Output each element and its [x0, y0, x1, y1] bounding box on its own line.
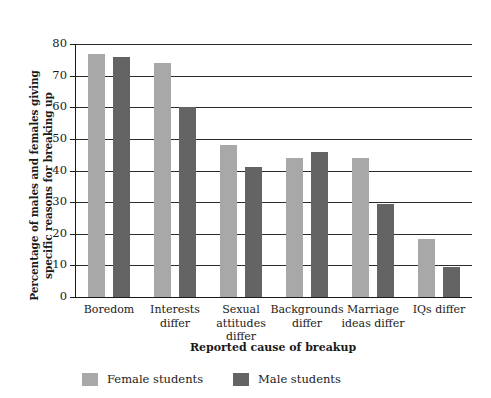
- gridline-30: [76, 202, 472, 203]
- y-axis-title: Percentage of males and females giving s…: [28, 57, 55, 315]
- y-tick-label-70: 70: [52, 70, 67, 82]
- gridline-50: [76, 139, 472, 140]
- y-tick-label-20: 20: [52, 228, 67, 240]
- gridline-80: [76, 44, 472, 45]
- bar-female-5: [418, 239, 435, 298]
- gridline-60: [76, 107, 472, 108]
- bar-female-1: [154, 63, 171, 297]
- legend-item-male[interactable]: Male students: [233, 372, 341, 386]
- legend-item-female[interactable]: Female students: [82, 372, 203, 386]
- gridline-10: [76, 265, 472, 266]
- bar-male-4: [377, 204, 394, 297]
- y-tick-mark-20: [70, 234, 76, 235]
- bar-female-2: [220, 145, 237, 297]
- y-tick-mark-0: [70, 297, 76, 298]
- bar-male-3: [311, 152, 328, 297]
- y-tick-mark-10: [70, 265, 76, 266]
- x-axis-title: Reported cause of breakup: [75, 341, 471, 354]
- legend-label-female: Female students: [107, 372, 203, 386]
- y-tick-mark-60: [70, 107, 76, 108]
- category-label-5: IQs differ: [398, 303, 480, 317]
- y-tick-label-40: 40: [52, 165, 67, 177]
- y-tick-label-80: 80: [52, 38, 67, 50]
- bar-chart: Percentage of males and females giving s…: [0, 0, 491, 398]
- bar-male-0: [113, 57, 130, 297]
- gridline-70: [76, 76, 472, 77]
- legend-swatch-male-icon: [233, 373, 249, 386]
- y-tick-label-60: 60: [52, 102, 67, 114]
- gridline-20: [76, 234, 472, 235]
- legend-swatch-female-icon: [82, 373, 98, 386]
- y-tick-mark-30: [70, 202, 76, 203]
- y-tick-label-10: 10: [52, 260, 67, 272]
- bar-female-0: [88, 54, 105, 298]
- chart-legend: Female studentsMale students: [82, 372, 341, 386]
- y-tick-mark-80: [70, 44, 76, 45]
- y-tick-label-30: 30: [52, 196, 67, 208]
- gridline-0: [76, 297, 472, 298]
- y-tick-mark-50: [70, 139, 76, 140]
- gridline-40: [76, 171, 472, 172]
- y-tick-mark-40: [70, 171, 76, 172]
- bar-female-4: [352, 158, 369, 297]
- bar-male-2: [245, 167, 262, 297]
- y-tick-mark-70: [70, 76, 76, 77]
- bar-male-5: [443, 267, 460, 297]
- plot-area: 01020304050607080 BoredomInterests diffe…: [75, 44, 472, 297]
- y-tick-label-50: 50: [52, 133, 67, 145]
- bar-male-1: [179, 107, 196, 297]
- y-tick-label-0: 0: [60, 291, 67, 303]
- legend-label-male: Male students: [258, 372, 341, 386]
- bar-female-3: [286, 158, 303, 297]
